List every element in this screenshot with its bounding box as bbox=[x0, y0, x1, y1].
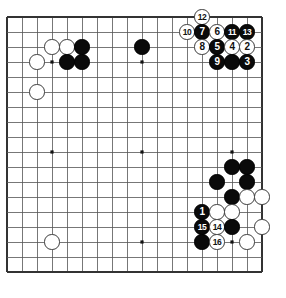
move-number-label: 9 bbox=[210, 57, 223, 67]
move-number-label: 3 bbox=[240, 57, 253, 67]
move-number-label: 8 bbox=[195, 42, 208, 52]
white-stone-move-14[interactable]: 14 bbox=[209, 219, 224, 234]
white-stone-b7[interactable] bbox=[29, 84, 44, 99]
white-stone-d16[interactable] bbox=[44, 234, 59, 249]
white-stone-move-6[interactable]: 6 bbox=[209, 24, 224, 39]
white-stone-b5[interactable] bbox=[29, 54, 44, 69]
move-number-label: 16 bbox=[210, 238, 223, 247]
black-stone-q12[interactable] bbox=[224, 159, 239, 174]
go-board[interactable]: 12107611138542931151416 bbox=[0, 0, 286, 298]
white-stone-move-16[interactable]: 16 bbox=[209, 234, 224, 249]
white-stone-move-10[interactable]: 10 bbox=[179, 24, 194, 39]
black-stone-d5[interactable] bbox=[59, 54, 74, 69]
move-number-label: 7 bbox=[195, 27, 208, 37]
black-stone-e5[interactable] bbox=[74, 54, 89, 69]
black-stone-move-15[interactable]: 15 bbox=[194, 219, 209, 234]
move-number-label: 5 bbox=[210, 42, 223, 52]
black-stone-move-3[interactable]: 3 bbox=[239, 54, 254, 69]
black-stone-q16[interactable] bbox=[224, 219, 239, 234]
black-stone-move-1[interactable]: 1 bbox=[194, 204, 209, 219]
move-number-label: 10 bbox=[180, 28, 193, 37]
black-stone-move-13[interactable]: 13 bbox=[239, 24, 254, 39]
black-stone-r13[interactable] bbox=[239, 174, 254, 189]
move-number-label: 13 bbox=[240, 28, 253, 37]
white-stone-move-12[interactable]: 12 bbox=[194, 9, 209, 24]
black-stone-j4[interactable] bbox=[134, 39, 149, 54]
white-stone-move-4[interactable]: 4 bbox=[224, 39, 239, 54]
move-number-label: 2 bbox=[240, 42, 253, 52]
black-stone-move-9[interactable]: 9 bbox=[209, 54, 224, 69]
black-stone-n17[interactable] bbox=[194, 234, 209, 249]
white-stone-d4[interactable] bbox=[59, 39, 74, 54]
black-stone-move-5[interactable]: 5 bbox=[209, 39, 224, 54]
move-number-label: 14 bbox=[210, 223, 223, 232]
black-stone-r12[interactable] bbox=[239, 159, 254, 174]
move-number-label: 11 bbox=[225, 28, 238, 37]
white-stone-q15[interactable] bbox=[224, 204, 239, 219]
black-stone-move-11[interactable]: 11 bbox=[224, 24, 239, 39]
move-number-label: 15 bbox=[195, 223, 208, 232]
white-stone-s14[interactable] bbox=[254, 189, 269, 204]
move-number-label: 1 bbox=[195, 207, 208, 217]
move-number-label: 6 bbox=[210, 27, 223, 37]
white-stone-s16[interactable] bbox=[254, 219, 269, 234]
white-stone-r14[interactable] bbox=[239, 189, 254, 204]
white-stone-r17[interactable] bbox=[239, 234, 254, 249]
go-diagram-screenshot: 12107611138542931151416 bbox=[0, 0, 286, 298]
white-stone-p15[interactable] bbox=[209, 204, 224, 219]
white-stone-c4[interactable] bbox=[44, 39, 59, 54]
white-stone-move-8[interactable]: 8 bbox=[194, 39, 209, 54]
black-stone-move-7[interactable]: 7 bbox=[194, 24, 209, 39]
move-number-label: 4 bbox=[225, 42, 238, 52]
black-stone-e4[interactable] bbox=[74, 39, 89, 54]
black-stone-r5[interactable] bbox=[224, 54, 239, 69]
white-stone-move-2[interactable]: 2 bbox=[239, 39, 254, 54]
black-stone-q14[interactable] bbox=[224, 189, 239, 204]
black-stone-p13[interactable] bbox=[209, 174, 224, 189]
move-number-label: 12 bbox=[195, 13, 208, 22]
